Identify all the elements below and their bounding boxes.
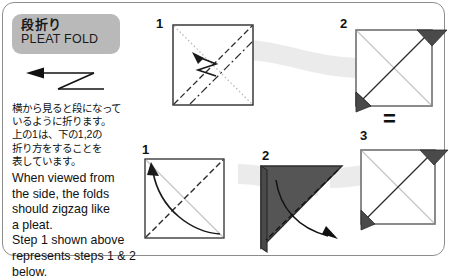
pleat-fold-final-square	[360, 144, 449, 234]
step-number-top-2: 2	[340, 16, 347, 31]
pleat-fold-summary-square	[172, 24, 254, 106]
step-number-top-1: 1	[156, 16, 163, 31]
connector-band-top	[243, 34, 363, 84]
step-number-bottom-1: 1	[142, 142, 149, 157]
pleat-fold-result-square	[355, 24, 449, 112]
valley-fold-square	[144, 158, 230, 244]
folded-triangle	[258, 164, 358, 256]
step-number-bottom-2: 2	[262, 148, 269, 163]
step-number-bottom-3: 3	[360, 128, 367, 143]
equals-sign: =	[383, 108, 395, 130]
